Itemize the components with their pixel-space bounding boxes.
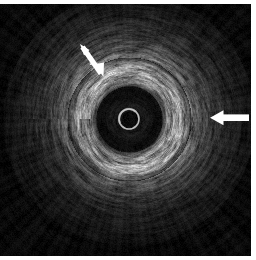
- page-margin-right: [251, 0, 256, 260]
- ivus-scan-plate: [0, 4, 251, 256]
- ivus-figure: Intravascular ultrasound (IVUS) cross-se…: [0, 0, 256, 260]
- ivus-grayscale-cross-section: [0, 4, 251, 256]
- page-margin-top: [0, 0, 256, 4]
